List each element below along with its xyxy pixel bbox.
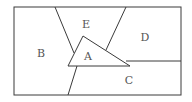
- region-diagram: A B C D E: [0, 0, 192, 102]
- line-b-c-divider: [68, 66, 77, 95]
- diagram-svg: A B C D E: [0, 0, 192, 102]
- label-region-a: A: [83, 50, 93, 63]
- label-region-c: C: [125, 74, 133, 87]
- triangle-region-a: [68, 36, 130, 66]
- line-e-d-divider: [106, 7, 126, 50]
- label-region-b: B: [37, 47, 45, 60]
- label-region-d: D: [141, 31, 150, 44]
- divider-lines: [55, 7, 181, 95]
- label-region-e: E: [82, 18, 90, 31]
- line-b-e-divider: [55, 7, 74, 53]
